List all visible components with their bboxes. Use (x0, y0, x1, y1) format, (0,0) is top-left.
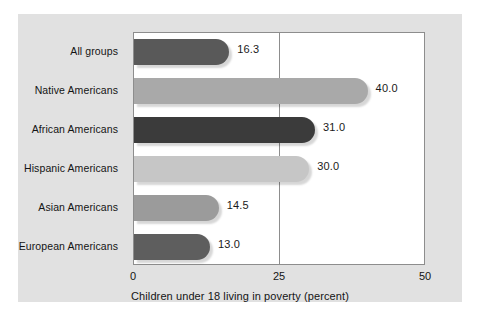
bar-value-label: 31.0 (323, 121, 345, 133)
bar-value-label: 13.0 (218, 238, 240, 250)
bar-african-americans[interactable] (134, 117, 315, 143)
bar-asian-americans[interactable] (134, 195, 219, 221)
bar-value-label: 16.3 (237, 43, 259, 55)
bar-value-label: 14.5 (227, 199, 249, 211)
plot-area: 16.340.031.030.014.513.0 (133, 32, 425, 265)
x-tick-25: 25 (259, 270, 299, 282)
bar-row: 16.3 (134, 39, 424, 65)
bar-value-label: 40.0 (376, 82, 398, 94)
bar-row: 14.5 (134, 195, 424, 221)
category-label-african-americans: African Americans (0, 123, 118, 135)
bar-row: 30.0 (134, 156, 424, 182)
category-label-native-americans: Native Americans (0, 84, 118, 96)
bar-all-groups[interactable] (134, 39, 229, 65)
x-tick-0: 0 (113, 270, 153, 282)
x-tick-50: 50 (405, 270, 445, 282)
category-label-all-groups: All groups (0, 45, 118, 57)
bar-row: 31.0 (134, 117, 424, 143)
category-label-european-americans: European Americans (0, 240, 118, 252)
bar-rows-container: 16.340.031.030.014.513.0 (134, 33, 424, 264)
bar-european-americans[interactable] (134, 234, 210, 260)
chart-figure-panel: 16.340.031.030.014.513.0 All groupsNativ… (18, 14, 462, 302)
bar-native-americans[interactable] (134, 78, 368, 104)
bar-value-label: 30.0 (317, 160, 339, 172)
bar-row: 13.0 (134, 234, 424, 260)
bar-row: 40.0 (134, 78, 424, 104)
bar-hispanic-americans[interactable] (134, 156, 309, 182)
category-label-hispanic-americans: Hispanic Americans (0, 162, 118, 174)
category-label-asian-americans: Asian Americans (0, 201, 118, 213)
x-axis-title: Children under 18 living in poverty (per… (18, 290, 462, 302)
